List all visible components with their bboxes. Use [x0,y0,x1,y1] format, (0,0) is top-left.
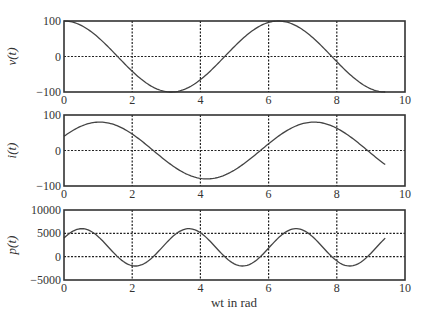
y-tick-label: −5000 [30,273,61,287]
panel-3: 02468101000050000−5000p(t) [4,203,411,295]
x-tick-label: 4 [197,281,203,295]
y-tick-label: 100 [43,108,61,122]
y-axis-label: i(t) [4,143,19,159]
x-tick-label: 2 [129,187,135,201]
y-tick-label: 0 [55,50,61,64]
x-tick-label: 10 [399,187,411,201]
y-tick-label: 0 [55,144,61,158]
x-tick-label: 8 [334,187,340,201]
y-axis-label: p(t) [4,236,19,256]
x-tick-label: 10 [399,281,411,295]
y-tick-label: 0 [55,250,61,264]
x-tick-label: 4 [197,93,203,107]
panel-1: 02468101000−100v(t) [4,14,411,107]
x-tick-label: 0 [61,187,67,201]
x-tick-label: 2 [129,281,135,295]
x-tick-label: 0 [61,93,67,107]
y-tick-label: 10000 [31,203,61,217]
x-tick-label: 0 [61,281,67,295]
x-tick-label: 4 [197,187,203,201]
panel-2: 02468101000−100i(t) [4,108,411,201]
x-tick-label: 6 [266,281,272,295]
x-tick-label: 6 [266,93,272,107]
x-axis-label: wt in rad [211,295,258,310]
series-line-p(t) [64,229,385,266]
x-tick-label: 8 [334,93,340,107]
x-tick-label: 8 [334,281,340,295]
y-tick-label: 100 [43,14,61,28]
y-tick-label: −100 [36,85,61,99]
x-tick-label: 10 [399,93,411,107]
y-axis-label: v(t) [4,47,19,65]
chart-figure: 02468101000−100v(t)02468101000−100i(t)02… [0,0,430,322]
y-tick-label: 5000 [37,226,61,240]
x-tick-label: 6 [266,187,272,201]
plot-frame [64,210,405,280]
x-tick-label: 2 [129,93,135,107]
y-tick-label: −100 [36,179,61,193]
plot-frame [64,21,405,92]
